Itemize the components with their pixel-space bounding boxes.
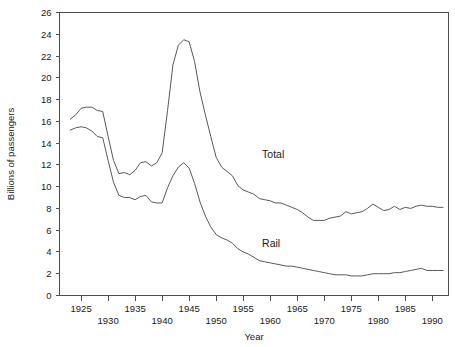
x-tick-label: 1960	[260, 315, 281, 326]
x-tick-label: 1990	[422, 315, 443, 326]
x-tick-label: 1935	[125, 303, 146, 314]
y-tick-label: 10	[41, 181, 52, 192]
x-axis-title: Year	[244, 331, 263, 342]
y-axis-ticks	[56, 13, 60, 296]
series-label-total: Total	[262, 148, 284, 160]
y-tick-label: 22	[41, 51, 52, 62]
series-line-rail	[70, 127, 443, 276]
x-tick-label: 1925	[71, 303, 92, 314]
x-tick-label: 1985	[395, 303, 416, 314]
x-axis-ticks	[81, 296, 432, 301]
x-tick-label: 1930	[98, 315, 119, 326]
y-tick-label: 18	[41, 94, 52, 105]
x-tick-label: 1950	[206, 315, 227, 326]
x-tick-label: 1940	[152, 315, 173, 326]
chart-canvas: 02468101214161820222426 1925193019351940…	[0, 0, 455, 347]
y-tick-label: 14	[41, 138, 52, 149]
y-tick-label: 20	[41, 72, 52, 83]
y-tick-label: 12	[41, 159, 52, 170]
y-tick-label: 2	[46, 268, 51, 279]
plot-frame	[60, 13, 449, 296]
y-tick-label: 16	[41, 116, 52, 127]
series-annotations: TotalRail	[262, 148, 284, 249]
y-axis-title: Billions of passengers	[5, 108, 16, 201]
x-tick-label: 1965	[287, 303, 308, 314]
y-tick-label: 8	[46, 203, 51, 214]
x-axis-ticklabels: 1925193019351940194519501955196019651970…	[71, 303, 443, 326]
data-series-group	[70, 40, 443, 276]
y-tick-label: 26	[41, 7, 52, 18]
series-line-total	[70, 40, 443, 221]
x-tick-label: 1980	[368, 315, 389, 326]
series-label-rail: Rail	[262, 237, 280, 249]
x-tick-label: 1970	[314, 315, 335, 326]
y-tick-label: 6	[46, 225, 51, 236]
y-tick-label: 4	[46, 246, 51, 257]
x-tick-label: 1955	[233, 303, 254, 314]
line-chart: 02468101214161820222426 1925193019351940…	[0, 0, 455, 347]
x-tick-label: 1975	[341, 303, 362, 314]
y-axis-ticklabels: 02468101214161820222426	[41, 7, 52, 301]
y-tick-label: 24	[41, 29, 52, 40]
y-tick-label: 0	[46, 290, 51, 301]
x-tick-label: 1945	[179, 303, 200, 314]
